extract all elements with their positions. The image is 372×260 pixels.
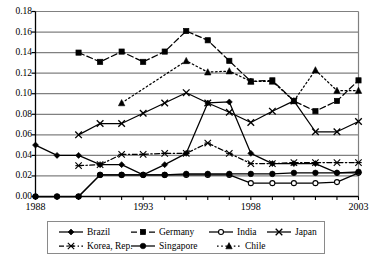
y-axis-tick-label: 0.02	[0, 170, 32, 180]
y-axis-tick-label: 0.00	[0, 191, 32, 201]
x-axis-tick-label: 2003	[339, 201, 372, 212]
legend-row: BrazilGermanyIndiaJapan	[48, 224, 326, 239]
marker-open-circle	[291, 181, 296, 186]
legend-label: Japan	[295, 227, 317, 237]
marker-filled-circle	[248, 171, 254, 177]
y-axis-tick-label: 0.04	[0, 150, 32, 160]
marker-filled-circle	[33, 194, 39, 200]
legend-label: Germany	[159, 227, 194, 237]
marker-filled-circle	[205, 171, 211, 177]
marker-filled-circle	[119, 172, 125, 178]
legend-item-korea-rep[interactable]: Korea, Rep.	[58, 240, 133, 252]
y-axis-tick-label: 0.08	[0, 109, 32, 119]
legend-symbol-open-circle-icon	[208, 226, 234, 238]
marker-filled-circle	[183, 171, 189, 177]
marker-square	[141, 59, 146, 64]
marker-filled-circle	[76, 194, 82, 200]
y-axis-tick-label: 0.18	[0, 6, 32, 16]
marker-square	[119, 49, 124, 54]
marker-filled-circle	[227, 171, 233, 177]
marker-square	[184, 28, 189, 33]
legend-item-japan[interactable]: Japan	[266, 226, 317, 238]
legend-item-singapore[interactable]: Singapore	[130, 240, 198, 252]
x-axis-tick-label: 1993	[123, 201, 163, 212]
legend-symbol-filled-circle-icon	[130, 240, 156, 252]
chart-legend: BrazilGermanyIndiaJapanKorea, Rep.Singap…	[47, 221, 325, 254]
legend-symbol-star-icon	[58, 240, 84, 252]
marker-square	[76, 50, 81, 55]
plot-area-background	[36, 12, 359, 197]
legend-item-india[interactable]: India	[208, 226, 257, 238]
legend-label: Korea, Rep.	[87, 241, 133, 251]
legend-symbol-cross-icon	[266, 226, 292, 238]
marker-open-circle	[219, 229, 224, 234]
marker-square	[356, 78, 361, 83]
legend-item-germany[interactable]: Germany	[130, 226, 194, 238]
legend-item-brazil[interactable]: Brazil	[58, 226, 110, 238]
marker-square	[98, 59, 103, 64]
marker-open-circle	[270, 181, 275, 186]
legend-label: India	[237, 227, 257, 237]
legend-label: Chile	[245, 241, 266, 251]
marker-open-circle	[248, 181, 253, 186]
marker-filled-circle	[356, 169, 362, 175]
y-axis-tick-label: 0.12	[0, 68, 32, 78]
marker-square	[227, 58, 232, 63]
marker-filled-circle	[97, 172, 103, 178]
marker-square	[162, 49, 167, 54]
legend-symbol-diamond-icon	[58, 226, 84, 238]
marker-filled-circle	[270, 171, 276, 177]
y-axis-tick-label: 0.16	[0, 27, 32, 37]
y-axis-tick-label: 0.06	[0, 129, 32, 139]
legend-item-chile[interactable]: Chile	[216, 240, 266, 252]
marker-filled-circle	[291, 170, 297, 176]
legend-row: Korea, Rep.SingaporeChile	[48, 238, 326, 253]
marker-filled-circle	[334, 170, 340, 176]
marker-filled-circle	[313, 170, 319, 176]
marker-square	[205, 38, 210, 43]
marker-filled-circle	[140, 243, 146, 249]
marker-open-circle	[334, 180, 339, 185]
legend-label: Brazil	[87, 227, 110, 237]
marker-filled-circle	[140, 172, 146, 178]
x-axis-tick-label: 1998	[231, 201, 271, 212]
y-axis-tick-label: 0.10	[0, 88, 32, 98]
marker-open-circle	[313, 181, 318, 186]
marker-diamond	[68, 229, 74, 235]
legend-symbol-square-icon	[130, 226, 156, 238]
x-axis-tick-label: 1988	[16, 201, 56, 212]
marker-square	[334, 98, 339, 103]
legend-symbol-triangle-icon	[216, 240, 242, 252]
marker-square	[313, 109, 318, 114]
line-chart: 0.000.020.040.060.080.100.120.140.160.18…	[0, 0, 372, 260]
marker-square	[140, 229, 145, 234]
y-axis-tick-label: 0.14	[0, 47, 32, 57]
legend-label: Singapore	[159, 241, 198, 251]
marker-filled-circle	[162, 172, 168, 178]
marker-filled-circle	[54, 194, 60, 200]
